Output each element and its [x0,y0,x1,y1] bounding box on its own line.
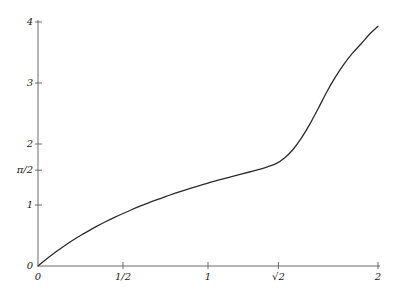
y-tick-label: 1 [27,200,33,210]
x-tick-label: √2 [272,272,285,282]
x-tick-label: 1/2 [115,272,131,282]
x-tick-label: 2 [375,272,381,282]
y-tick-label: 3 [27,78,33,88]
y-tick-label: π/2 [17,165,33,175]
x-tick-label: 1 [205,272,211,282]
y-tick-label: 0 [27,261,33,271]
curve-path [38,26,378,266]
axes-group [38,20,380,266]
plot-canvas [0,0,404,298]
y-tick-label: 2 [27,139,33,149]
x-tick-label: 0 [35,272,41,282]
data-curve [38,26,378,266]
y-tick-label: 4 [27,17,33,27]
chart-figure: 01/21√22 01π/2234 [0,0,404,298]
